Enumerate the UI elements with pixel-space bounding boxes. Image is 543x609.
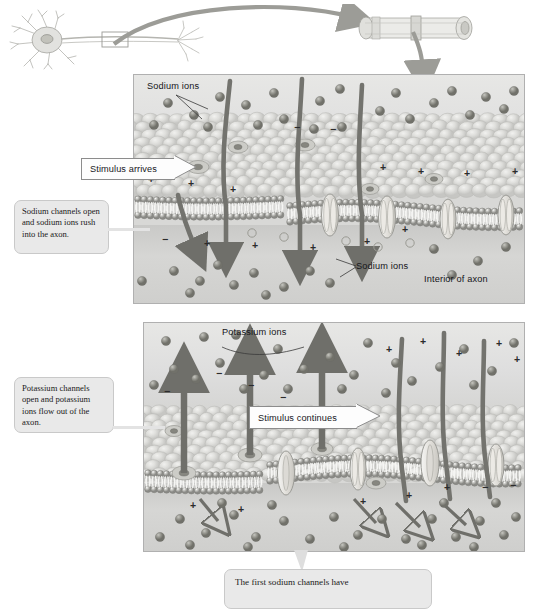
label-interior-of-axon: Interior of axon [424, 274, 488, 284]
svg-text:−: − [280, 391, 286, 403]
panel-top-depolarization: {} [133, 74, 525, 304]
svg-text:+: + [238, 503, 244, 515]
svg-text:+: + [496, 337, 502, 349]
svg-text:−: − [482, 481, 488, 493]
callout-stimulus-continues[interactable]: Stimulus continues [249, 406, 381, 429]
svg-text:+: + [512, 165, 518, 177]
leader-sodium-ions-exterior [174, 93, 224, 123]
svg-text:−: − [510, 479, 516, 491]
svg-text:+: + [204, 237, 210, 249]
svg-text:−: − [294, 121, 300, 133]
leader-sodium-ions-interior [330, 255, 370, 291]
svg-text:+: + [252, 239, 258, 251]
svg-text:+: + [420, 335, 426, 347]
callout-stimulus-continues-label: Stimulus continues [258, 413, 337, 423]
stimulus-arrives-arrowhead [174, 152, 197, 182]
svg-text:+: + [464, 167, 470, 179]
svg-text:+: + [444, 481, 450, 493]
svg-text:−: − [330, 123, 336, 135]
svg-text:+: + [230, 183, 236, 195]
callout-potassium-channels-open-text: Potassium channels open and potassium io… [22, 383, 90, 427]
stimulus-continues-arrowhead [356, 400, 381, 432]
callout-sodium-channels-open-text: Sodium channels open and sodium ions rus… [22, 206, 100, 239]
svg-text:+: + [406, 489, 412, 501]
svg-text:−: − [248, 379, 254, 391]
svg-text:+: + [364, 235, 370, 247]
svg-text:+: + [310, 241, 316, 253]
callout-sodium-channels-open[interactable]: Sodium channels open and sodium ions rus… [14, 200, 109, 254]
leader-potassium-ions [210, 337, 320, 359]
callout-stimulus-arrives[interactable]: Stimulus arrives [81, 158, 197, 180]
svg-text:−: − [164, 385, 170, 397]
svg-text:+: + [386, 343, 392, 355]
callout-stimulus-arrives-label: Stimulus arrives [90, 164, 157, 174]
svg-text:+: + [402, 223, 408, 235]
bottom-caption[interactable]: The first sodium channels have [224, 569, 432, 609]
callout-potassium-channels-open[interactable]: Potassium channels open and potassium io… [14, 377, 114, 433]
bottom-caption-text: The first sodium channels have [235, 577, 349, 587]
svg-text:+: + [456, 347, 462, 359]
svg-text:+: + [514, 353, 520, 365]
svg-text:+: + [380, 161, 386, 173]
svg-text:+: + [418, 165, 424, 177]
panel-bottom-artwork: −−−−++++++++++−− [144, 323, 524, 551]
label-potassium-ions: Potassium ions [222, 327, 286, 337]
svg-text:+: + [360, 495, 366, 507]
label-sodium-ions-exterior: Sodium ions [147, 81, 199, 91]
callout-potassium-tail [113, 426, 165, 429]
zoom-arrow-to-axon [108, 4, 370, 52]
svg-text:−: − [162, 233, 168, 245]
panel-bottom-repolarization: −−−−++++++++++−− Potassium ions [143, 322, 525, 552]
svg-text:−: − [216, 367, 222, 379]
svg-text:+: + [190, 499, 196, 511]
callout-sodium-tail [108, 228, 150, 231]
